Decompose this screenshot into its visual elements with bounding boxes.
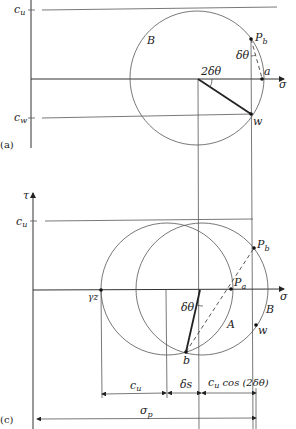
b-to-pb-dashed xyxy=(186,248,254,352)
pole-pa-point xyxy=(229,287,233,291)
dim-cu-label: cu xyxy=(130,379,141,393)
dim-cucos-label: cu cos (2δθ) xyxy=(208,376,269,390)
pole-to-a-dashed xyxy=(251,39,262,78)
cu-line-c xyxy=(45,219,253,221)
cw-label-a: cw xyxy=(14,111,27,125)
pole-pb-label-a: Pb xyxy=(254,31,268,46)
cu-label-c: cu xyxy=(16,215,27,229)
point-gammaz xyxy=(99,288,103,292)
sigma-label-a: σ xyxy=(279,78,287,91)
gammaz-label: γz xyxy=(88,292,98,302)
angle-2dtheta-label: 2δθ xyxy=(200,65,222,78)
pole-pb-point-c xyxy=(252,246,256,250)
panel-c: τ cu γz Pa Pb σ B A w b δθ cu δs cu cos … xyxy=(0,189,288,429)
panel-c-label: (c) xyxy=(0,414,14,425)
angle-dtheta-label-a: δθ xyxy=(236,49,250,62)
circle-b-label-a: B xyxy=(146,34,155,47)
radius-line-c xyxy=(186,290,200,352)
mohr-circle-diagram: cu cw B 2δθ δθ Pb a σ w (a) τ xyxy=(0,0,296,429)
angle-dtheta-label-c: δθ xyxy=(181,301,195,314)
radius-line-a xyxy=(198,79,251,114)
pole-pb-point xyxy=(249,37,253,41)
dim-sigma-p xyxy=(37,418,256,419)
circle-a-label: A xyxy=(226,318,235,331)
circle-b-label-c: B xyxy=(265,303,274,316)
mohr-circle-b-a xyxy=(130,11,264,145)
pole-vertical-line xyxy=(251,38,253,429)
pole-pb-label-c: Pb xyxy=(256,238,270,253)
pole-pa-label: Pa xyxy=(233,276,246,291)
point-w-label-c: w xyxy=(258,324,268,337)
dim-ds-label: δs xyxy=(180,378,193,391)
circle-a-center-vertical xyxy=(166,290,167,398)
dim-sigma-p-label: σp xyxy=(140,404,153,419)
gammaz-vertical xyxy=(101,290,102,398)
dim-cu xyxy=(102,393,166,394)
cw-line-a xyxy=(42,114,253,118)
panel-a-label: (a) xyxy=(0,139,14,150)
panel-a: cu cw B 2δθ δθ Pb a σ w (a) xyxy=(0,0,287,429)
point-a-label: a xyxy=(264,65,271,78)
sigma-axis-c xyxy=(33,289,284,290)
center-vertical-line xyxy=(198,79,199,429)
sigma-label-c: σ xyxy=(280,290,288,303)
angle-arc-c xyxy=(197,305,203,306)
angle-arc-pole xyxy=(251,55,256,56)
point-b-label: b xyxy=(183,354,190,367)
angle-arc-center xyxy=(210,79,212,87)
tau-label: τ xyxy=(23,189,30,202)
cu-label-a: cu xyxy=(14,3,25,17)
point-w-label-a: w xyxy=(253,115,263,128)
cu-line-a xyxy=(42,7,277,10)
